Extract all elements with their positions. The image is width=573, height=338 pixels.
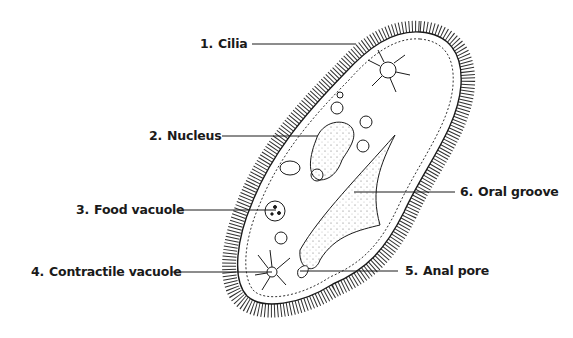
label-number: 1. xyxy=(200,36,213,51)
paramecium-diagram xyxy=(0,0,573,338)
label-number: 2. xyxy=(149,128,162,143)
label-food-vacuole: 3.Food vacuole xyxy=(76,202,184,217)
label-text: Nucleus xyxy=(167,128,221,143)
label-text: Oral groove xyxy=(478,184,559,199)
label-oral-groove: 6.Oral groove xyxy=(460,184,559,199)
label-number: 6. xyxy=(460,184,473,199)
label-text: Food vacuole xyxy=(94,202,184,217)
label-contractile-vacuole: 4.Contractile vacuole xyxy=(31,264,182,279)
label-nucleus: 2.Nucleus xyxy=(149,128,222,143)
label-number: 4. xyxy=(31,264,44,279)
label-text: Cilia xyxy=(218,36,247,51)
label-anal-pore: 5.Anal pore xyxy=(405,263,489,278)
label-text: Contractile vacuole xyxy=(49,264,181,279)
label-number: 5. xyxy=(405,263,418,278)
label-cilia: 1.Cilia xyxy=(200,36,248,51)
label-text: Anal pore xyxy=(423,263,489,278)
label-number: 3. xyxy=(76,202,89,217)
